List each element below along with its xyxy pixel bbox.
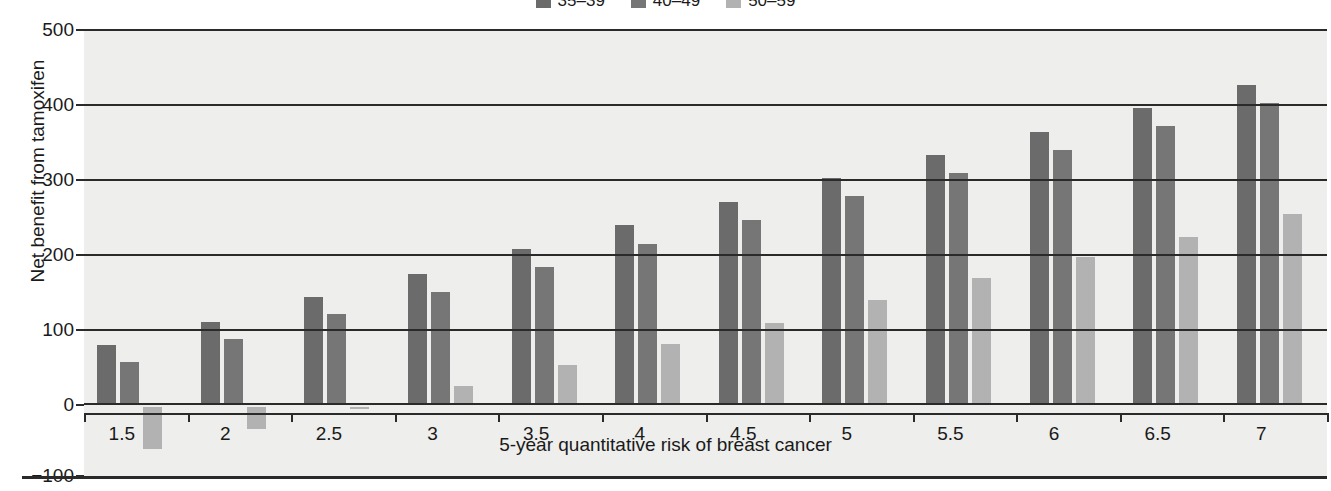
bar — [224, 339, 243, 405]
y-axis-tick-mark — [76, 404, 84, 406]
x-axis-tick-mark — [291, 413, 293, 422]
bar — [1179, 237, 1198, 405]
bar — [1237, 85, 1256, 405]
x-axis-tick-mark — [1120, 413, 1122, 422]
y-axis-tick-mark — [76, 179, 84, 181]
bar — [638, 244, 657, 405]
bar — [535, 267, 554, 405]
zero-line — [84, 403, 1327, 405]
legend-label: 35–39 — [558, 0, 605, 9]
x-axis-tick-mark — [188, 413, 190, 422]
chart-legend: 35–39 40–49 50–59 — [0, 0, 1331, 8]
y-axis-tick-label: 200 — [0, 244, 86, 266]
gridline — [84, 104, 1327, 106]
y-axis-tick-mark — [76, 329, 84, 331]
gridline — [84, 329, 1327, 331]
x-axis-tick-mark — [498, 413, 500, 422]
figure-bottom-rule — [22, 476, 1327, 479]
x-axis-tick-mark — [706, 413, 708, 422]
bar — [408, 274, 427, 405]
y-axis-tick-label: 500 — [0, 19, 86, 41]
legend-item: 35–39 — [536, 0, 605, 9]
bar — [1156, 126, 1175, 405]
bar — [742, 220, 761, 405]
legend-label: 50–59 — [748, 0, 795, 9]
y-axis-tick-mark — [76, 104, 84, 106]
plot-area — [84, 30, 1327, 405]
bar — [97, 345, 116, 405]
gridline — [84, 254, 1327, 256]
x-axis-tick-mark — [1016, 413, 1018, 422]
bar — [1283, 214, 1302, 405]
bar — [201, 322, 220, 405]
x-axis-tick-mark — [395, 413, 397, 422]
x-axis-title: 5-year quantitative risk of breast cance… — [0, 434, 1331, 456]
y-axis-tick-mark — [76, 254, 84, 256]
bar — [1030, 132, 1049, 405]
bar — [949, 173, 968, 405]
bar — [512, 249, 531, 405]
legend-item: 50–59 — [726, 0, 795, 9]
bar — [615, 225, 634, 405]
bar — [868, 300, 887, 405]
y-axis-tick-label: 300 — [0, 169, 86, 191]
y-axis-tick-label: 100 — [0, 319, 86, 341]
legend-swatch-icon — [631, 0, 646, 8]
y-axis-tick-mark — [76, 29, 84, 31]
bar-negative — [247, 407, 266, 429]
legend-item: 40–49 — [631, 0, 700, 9]
chart-figure: 35–39 40–49 50–59 Net benefit from tamox… — [0, 0, 1331, 491]
bar — [845, 196, 864, 405]
legend-label: 40–49 — [653, 0, 700, 9]
bar-groups — [84, 30, 1327, 405]
bar — [765, 323, 784, 406]
bar — [719, 202, 738, 405]
bar — [558, 365, 577, 405]
gridline — [84, 179, 1327, 181]
bar-negative — [350, 407, 369, 409]
bar — [972, 278, 991, 405]
x-axis-tick-mark — [1223, 413, 1225, 422]
bar — [661, 344, 680, 406]
y-axis-tick-label: 400 — [0, 94, 86, 116]
x-axis-tick-mark — [602, 413, 604, 422]
x-axis-tick-mark — [1327, 413, 1329, 422]
legend-swatch-icon — [536, 0, 551, 8]
legend-swatch-icon — [726, 0, 741, 8]
x-axis-tick-mark — [913, 413, 915, 422]
x-axis-tick-mark — [809, 413, 811, 422]
bar — [926, 155, 945, 405]
bar — [1053, 150, 1072, 405]
y-axis-tick-label: 0 — [0, 394, 86, 416]
bar — [304, 297, 323, 405]
bar — [822, 178, 841, 405]
gridline — [84, 29, 1327, 31]
bar — [327, 314, 346, 405]
bar — [1133, 108, 1152, 405]
bar — [431, 292, 450, 405]
x-axis-tick-mark — [84, 413, 86, 422]
bar — [120, 362, 139, 406]
